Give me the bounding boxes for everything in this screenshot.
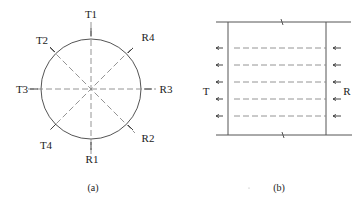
tick-t2 xyxy=(50,47,55,52)
arrow-left-icon xyxy=(216,115,223,118)
path-t2-r2 xyxy=(50,48,135,133)
speck xyxy=(248,187,249,188)
label-r2: R2 xyxy=(142,132,155,144)
tick-r4 xyxy=(128,48,133,53)
diagram-canvas: T1 R1 T3 R3 T2 R4 T4 R2 (a) xyxy=(0,0,358,203)
caption-a: (a) xyxy=(87,182,98,194)
tick-t4 xyxy=(51,124,56,129)
transmitter-arrows xyxy=(216,47,223,118)
arrow-left-icon xyxy=(333,98,341,101)
arrow-left-icon xyxy=(333,47,341,50)
label-transmitter: T xyxy=(203,85,210,97)
arrow-left-icon xyxy=(333,81,341,84)
label-r3: R3 xyxy=(160,83,173,95)
arrow-left-icon xyxy=(216,98,223,101)
path-t4-r4 xyxy=(50,47,133,130)
label-t1: T1 xyxy=(85,8,97,20)
label-t4: T4 xyxy=(40,139,53,151)
label-t2: T2 xyxy=(36,34,48,46)
receiver-arrows xyxy=(333,47,341,118)
arrow-left-icon xyxy=(333,115,341,118)
label-receiver: R xyxy=(343,85,351,97)
label-r4: R4 xyxy=(142,31,155,43)
caption-b: (b) xyxy=(273,182,285,194)
label-t3: T3 xyxy=(16,83,29,95)
arrow-left-icon xyxy=(216,47,223,50)
arrow-left-icon xyxy=(333,64,341,67)
arrow-left-icon xyxy=(216,81,223,84)
label-r1: R1 xyxy=(86,153,99,165)
tick-r2 xyxy=(128,125,133,130)
figure-a: T1 R1 T3 R3 T2 R4 T4 R2 (a) xyxy=(16,8,173,194)
figure-b: T R (b) xyxy=(203,19,352,194)
arrow-left-icon xyxy=(216,64,223,67)
